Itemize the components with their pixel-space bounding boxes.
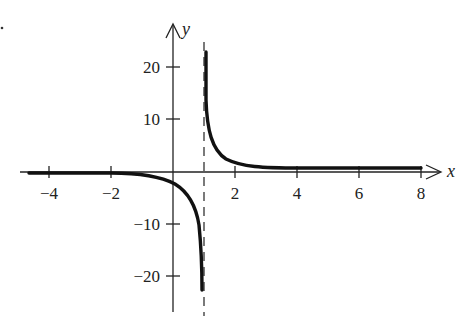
x-tick-label: 8 bbox=[417, 184, 426, 203]
x-tick-label: −4 bbox=[40, 184, 59, 203]
stray-dot bbox=[1, 27, 4, 30]
y-tick-label: 20 bbox=[143, 58, 160, 77]
x-tick-label: −2 bbox=[102, 184, 120, 203]
chart: x y −4 −2 2 4 6 8 20 10 −10 −20 bbox=[0, 0, 471, 321]
y-tick-label: 10 bbox=[143, 110, 160, 129]
y-tick-label: −10 bbox=[133, 215, 160, 234]
x-tick-label: 6 bbox=[355, 184, 364, 203]
x-tick-label: 4 bbox=[293, 184, 302, 203]
x-tick-label: 2 bbox=[231, 184, 240, 203]
x-axis-label: x bbox=[446, 161, 455, 181]
curve-right-branch bbox=[206, 52, 421, 168]
y-tick-label: −20 bbox=[133, 267, 160, 286]
y-axis-label: y bbox=[180, 19, 190, 39]
